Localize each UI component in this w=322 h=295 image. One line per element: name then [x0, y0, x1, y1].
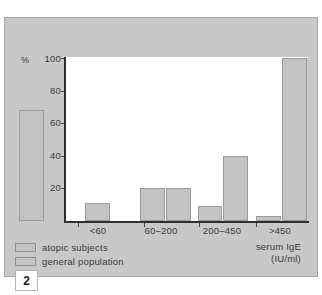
plot-frame-top-edge — [65, 57, 308, 58]
legend-item-atopic-subjects: atopic subjects — [15, 241, 124, 254]
legend-label-atopic-subjects: atopic subjects — [42, 242, 108, 253]
figure-number-text: 2 — [23, 274, 30, 288]
legend-swatch-icon-general-population — [15, 257, 36, 266]
bar-atopic-gt450 — [256, 216, 281, 221]
bar-general-lt60 — [85, 203, 110, 221]
y-tick-label-60: 60 — [50, 117, 61, 128]
bar-atopic-200-450 — [198, 206, 222, 221]
y-tick-label-20: 20 — [50, 182, 61, 193]
x-axis-title-text: serum IgE — [256, 241, 301, 253]
figure-panel: % 100 80 60 40 20 <60 60–200 200–450 >45… — [4, 17, 318, 277]
x-label-gt450: >450 — [253, 225, 307, 236]
legend: atopic subjects general population — [15, 241, 124, 269]
figure-number-badge: 2 — [15, 270, 38, 291]
x-axis-title: serum IgE (IU/ml) — [256, 241, 301, 265]
legend-label-general-population: general population — [42, 256, 124, 267]
x-label-200-450: 200–450 — [190, 225, 254, 236]
y-tick-label-40: 40 — [50, 150, 61, 161]
bar-atopic-60-200 — [140, 188, 165, 221]
x-label-lt60: <60 — [68, 225, 128, 236]
legend-item-general-population: general population — [15, 255, 124, 268]
x-label-60-200: 60–200 — [131, 225, 191, 236]
y-tick-label-80: 80 — [50, 85, 61, 96]
bar-atopic-lt60 — [19, 110, 44, 221]
bar-general-60-200 — [166, 188, 191, 221]
y-axis-line — [64, 57, 66, 222]
x-axis-line — [64, 221, 309, 223]
x-axis-title-unit: (IU/ml) — [256, 253, 301, 265]
y-tick-label-100: 100 — [45, 53, 61, 64]
bar-general-gt450 — [282, 58, 307, 221]
legend-swatch-icon-atopic-subjects — [15, 243, 36, 252]
y-axis-unit-label: % — [21, 55, 29, 65]
bar-general-200-450 — [223, 156, 248, 221]
